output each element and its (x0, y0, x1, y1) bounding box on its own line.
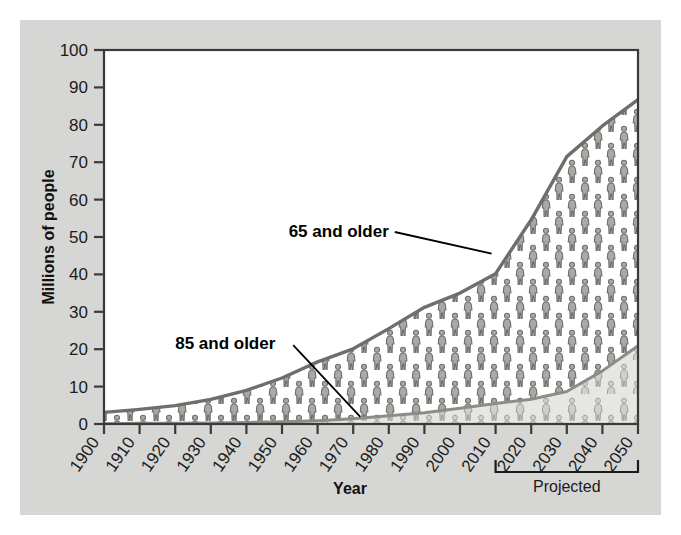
x-axis-ticks: 1900191019201930194019501960197019801990… (66, 424, 638, 475)
y-axis-tick-label: 70 (69, 153, 88, 172)
y-axis-tick-label: 30 (69, 303, 88, 322)
x-axis-tick-label: 1960 (280, 433, 317, 475)
x-axis-tick-label: 2010 (458, 433, 495, 475)
x-axis-title: Year (333, 480, 367, 497)
y-axis-tick-label: 40 (69, 265, 88, 284)
y-axis-tick-label: 90 (69, 78, 88, 97)
x-axis-tick-label: 2020 (493, 433, 530, 475)
x-axis-tick-label: 1900 (66, 433, 103, 475)
y-axis-tick-label: 20 (69, 340, 88, 359)
x-axis-tick-label: 2000 (422, 433, 459, 475)
x-axis-tick-label: 1910 (102, 433, 139, 475)
x-axis-tick-label: 1970 (315, 433, 352, 475)
x-axis-tick-label: 1920 (137, 433, 174, 475)
x-axis-tick-label: 2050 (600, 433, 637, 475)
x-axis-tick-label: 1930 (173, 433, 210, 475)
projected-label: Projected (533, 478, 601, 495)
y-axis-tick-label: 80 (69, 116, 88, 135)
y-axis-tick-label: 50 (69, 228, 88, 247)
chart-container: 0102030405060708090100 19001910192019301… (20, 20, 661, 515)
x-axis-tick-label: 1940 (208, 433, 245, 475)
y-axis-ticks: 0102030405060708090100 (60, 41, 104, 434)
population-area-chart: 0102030405060708090100 19001910192019301… (20, 20, 661, 515)
y-axis-title: Millions of people (40, 169, 57, 304)
annotation-65-label: 65 and older (289, 222, 390, 241)
annotation-85-label: 85 and older (175, 334, 276, 353)
y-axis-tick-label: 60 (69, 191, 88, 210)
x-axis-tick-label: 2040 (564, 433, 601, 475)
x-axis-tick-label: 1990 (386, 433, 423, 475)
y-axis-tick-label: 10 (69, 378, 88, 397)
x-axis-tick-label: 1950 (244, 433, 281, 475)
x-axis-tick-label: 2030 (529, 433, 566, 475)
y-axis-tick-label: 0 (79, 415, 88, 434)
x-axis-tick-label: 1980 (351, 433, 388, 475)
figure-panel: 0102030405060708090100 19001910192019301… (20, 20, 661, 515)
y-axis-tick-label: 100 (60, 41, 88, 60)
